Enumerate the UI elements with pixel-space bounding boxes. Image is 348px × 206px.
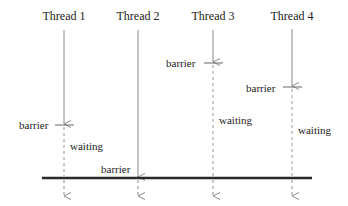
diagram-canvas: Thread 1 Thread 2 Thread 3 Thread 4 barr… <box>0 0 348 206</box>
thread-1-timeline: barrier waiting <box>19 30 103 196</box>
thread-2-timeline: barrier <box>101 30 138 196</box>
thread-2-title: Thread 2 <box>117 9 160 23</box>
thread-4-title: Thread 4 <box>271 9 314 23</box>
thread-4-barrier-label: barrier <box>246 82 276 94</box>
thread-3-waiting-label: waiting <box>219 114 252 126</box>
thread-2-barrier-label: barrier <box>101 163 131 175</box>
thread-4-waiting-label: waiting <box>298 124 331 136</box>
thread-1-title: Thread 1 <box>43 9 86 23</box>
thread-3-barrier-label: barrier <box>166 57 196 69</box>
thread-3-timeline: barrier waiting <box>166 30 252 196</box>
thread-4-timeline: barrier waiting <box>246 29 331 196</box>
thread-1-barrier-label: barrier <box>19 119 49 131</box>
thread-3-title: Thread 3 <box>192 9 235 23</box>
thread-1-waiting-label: waiting <box>70 140 103 152</box>
barrier-diagram: Thread 1 Thread 2 Thread 3 Thread 4 barr… <box>0 0 348 206</box>
